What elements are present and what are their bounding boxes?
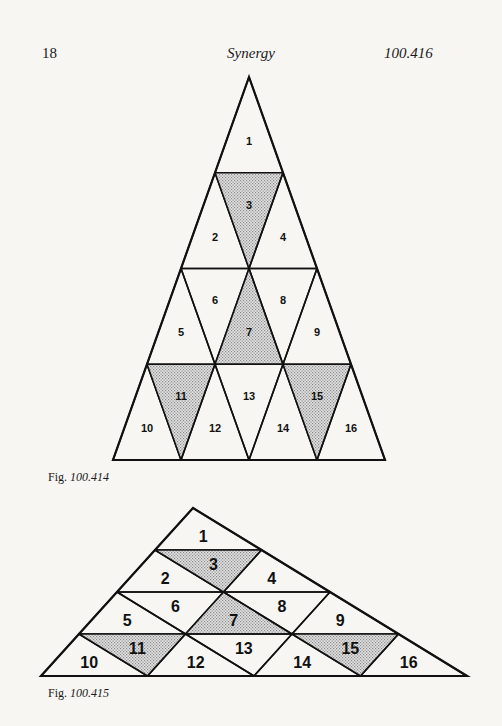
triangle-cell-9 [283, 269, 351, 365]
caption-number: 100.415 [70, 686, 109, 700]
triangle-label: 6 [171, 598, 180, 615]
triangle-label: 4 [280, 231, 287, 243]
triangle-label: 10 [141, 422, 153, 434]
triangle-label: 3 [209, 556, 218, 573]
triangle-cell-15 [283, 364, 351, 460]
triangle-cell-11 [147, 364, 215, 460]
caption-prefix: Fig. [48, 686, 67, 700]
triangle-label: 7 [229, 612, 238, 629]
triangle-label: 7 [246, 326, 252, 338]
triangle-label: 1 [199, 528, 208, 545]
triangle-label: 12 [209, 422, 221, 434]
triangle-cell-3 [215, 173, 283, 269]
figure-100-415-sheared-triangle-grid: 12345678910111213141516 [41, 508, 467, 676]
triangle-label: 11 [129, 640, 146, 657]
triangle-cell-13 [215, 364, 283, 460]
triangle-label: 16 [400, 654, 418, 671]
triangle-label: 9 [314, 326, 320, 338]
figure-caption-100-415: Fig. 100.415 [48, 686, 109, 700]
triangle-cell-7 [186, 592, 293, 634]
triangle-label: 16 [345, 422, 357, 434]
triangle-cell-1 [155, 508, 262, 550]
triangle-cell-5 [147, 269, 215, 365]
triangle-label: 2 [212, 231, 218, 243]
triangle-label: 10 [80, 654, 98, 671]
triangle-label: 9 [336, 612, 345, 629]
triangle-label: 3 [246, 199, 252, 211]
triangle-label: 2 [161, 570, 170, 587]
caption-number: 100.414 [70, 470, 109, 484]
triangle-label: 14 [293, 654, 311, 671]
triangle-label: 8 [277, 598, 286, 615]
triangle-label: 5 [178, 326, 184, 338]
triangle-label: 5 [123, 612, 132, 629]
triangle-label: 1 [246, 135, 252, 147]
triangle-cell-5 [79, 592, 186, 634]
triangle-label: 13 [243, 390, 255, 402]
figure-diagrams: 12345678910111213141516 1234567891011121… [0, 0, 502, 726]
figure-caption-100-414: Fig. 100.414 [48, 470, 109, 484]
triangle-label: 15 [311, 390, 323, 402]
triangle-cell-9 [292, 592, 399, 634]
triangle-cell-1 [215, 77, 283, 173]
triangle-label: 13 [235, 640, 253, 657]
triangle-label: 11 [175, 390, 187, 402]
figure-100-414-triangle-grid: 12345678910111213141516 [113, 77, 385, 460]
triangle-label: 4 [267, 570, 276, 587]
triangle-label: 6 [212, 294, 218, 306]
caption-prefix: Fig. [48, 470, 67, 484]
triangle-label: 8 [280, 294, 286, 306]
triangle-cell-7 [215, 269, 283, 365]
triangle-label: 12 [187, 654, 205, 671]
triangle-label: 15 [341, 640, 359, 657]
triangle-label: 14 [277, 422, 290, 434]
